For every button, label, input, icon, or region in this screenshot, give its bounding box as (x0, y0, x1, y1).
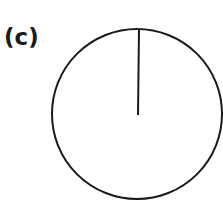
circle-diagram (0, 0, 223, 216)
circle-outline (52, 29, 222, 199)
radius-line (138, 29, 139, 115)
